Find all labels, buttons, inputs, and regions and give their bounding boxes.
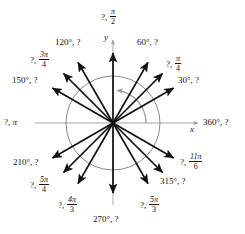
angle-label-deg-210: 210°, ?	[13, 158, 39, 167]
angle-label-deg-150: 150°, ?	[12, 76, 38, 85]
angle-label-rad-225: ?, 5π4	[30, 176, 50, 194]
angle-label-deg-270: 270°, ?	[93, 215, 119, 224]
x-axis-label: x	[190, 124, 194, 134]
angle-label-rad-330: ?, 11π6	[180, 153, 203, 171]
angle-label-deg-60: 60°, ?	[137, 38, 158, 47]
angle-label-rad-135: ?, 3π4	[30, 51, 50, 69]
angle-label-rad-90: ?, π2	[101, 8, 117, 26]
angle-label-rad-300: ?, 5π3	[140, 196, 160, 214]
angle-label-rad-240: ?, 4π3	[58, 196, 78, 214]
angle-label-rad-180: ?, π	[4, 118, 17, 127]
unit-circle-figure: x y 30°, ??, π460°, ??, π2120°, ??, 3π41…	[0, 0, 245, 234]
angle-label-deg-360: 360°, ?	[203, 118, 229, 127]
angle-label-rad-45: ?, π4	[166, 55, 182, 73]
y-axis-label: y	[104, 32, 108, 42]
angle-label-deg-315: 315°, ?	[160, 177, 186, 186]
angle-label-deg-120: 120°, ?	[55, 38, 81, 47]
angle-label-deg-30: 30°, ?	[178, 76, 199, 85]
